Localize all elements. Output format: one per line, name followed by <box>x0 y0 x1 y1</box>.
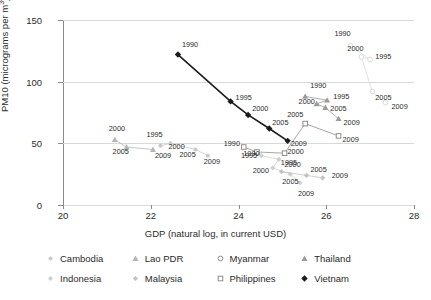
point-year-label: 1995 <box>236 94 252 101</box>
point-year-label: 2009 <box>332 172 348 179</box>
point-year-label: 2000 <box>253 167 269 174</box>
point-year-label: 2000 <box>252 105 268 112</box>
data-point-malaysia-2000 <box>279 169 284 174</box>
y-axis-tick-label: 100 <box>26 76 42 87</box>
point-year-label: 2005 <box>287 111 303 118</box>
y-axis-tick-label: 150 <box>26 15 42 26</box>
point-year-label: 2009 <box>155 152 171 159</box>
data-point-indonesia-2000 <box>270 165 275 170</box>
point-year-label: 2000 <box>347 45 363 52</box>
x-axis-tick-label: 22 <box>145 210 156 221</box>
point-year-label: 2009 <box>291 140 307 147</box>
point-year-label: 1995 <box>146 131 162 138</box>
point-year-label: 2009 <box>391 103 407 110</box>
point-year-label: 2005 <box>272 119 288 126</box>
legend-label: Cambodia <box>60 253 103 264</box>
legend-label: Philippines <box>230 273 276 284</box>
legend-item-philippines[interactable]: Philippines <box>216 268 301 288</box>
x-axis-tick <box>414 205 415 209</box>
legend-item-vietnam[interactable]: Vietnam <box>300 268 385 288</box>
point-year-label: 2005 <box>282 178 298 185</box>
legend-item-thailand[interactable]: Thailand <box>300 248 385 268</box>
y-axis-tick-label: 50 <box>31 138 42 149</box>
legend-item-malaysia[interactable]: Malaysia <box>131 268 216 288</box>
diamond-small-icon <box>46 274 55 283</box>
legend-item-cambodia[interactable]: Cambodia <box>46 248 131 268</box>
pm10-vs-gdp-scatter-chart: PM10 (micrograms per m3) GDP (natural lo… <box>0 0 431 300</box>
point-year-label: 2000 <box>288 148 304 155</box>
x-axis-tick-label: 20 <box>58 210 69 221</box>
point-year-label: 1990 <box>182 41 198 48</box>
data-point-myanmar-2000 <box>359 55 364 60</box>
x-axis-tick <box>151 205 152 209</box>
legend-item-indonesia[interactable]: Indonesia <box>46 268 131 288</box>
x-axis-tick-label: 26 <box>321 210 332 221</box>
diamond-icon <box>300 274 309 283</box>
point-year-label: 2009 <box>344 119 360 126</box>
point-year-label: 1990 <box>334 30 350 37</box>
data-point-philippines-2009 <box>336 134 341 139</box>
circle-open-icon <box>216 254 225 263</box>
point-year-label: 1990 <box>224 140 240 147</box>
point-year-label: 2000 <box>109 125 125 132</box>
point-year-label: 2005 <box>180 151 196 158</box>
x-axis-tick-label: 24 <box>233 210 244 221</box>
point-year-label: 2009 <box>204 158 220 165</box>
x-axis-tick <box>326 205 327 209</box>
point-year-label: 2005 <box>311 166 327 173</box>
point-year-label: 2005 <box>113 148 129 155</box>
point-year-label: 1995 <box>333 93 349 100</box>
legend-label: Lao PDR <box>145 253 184 264</box>
x-axis-tick <box>63 205 64 209</box>
data-point-malaysia-2009 <box>320 175 325 180</box>
legend-label: Thailand <box>314 253 350 264</box>
y-axis-tick-label: 0 <box>37 200 42 211</box>
x-axis-tick-label: 28 <box>409 210 420 221</box>
legend-item-lao-pdr[interactable]: Lao PDR <box>131 248 216 268</box>
legend-label: Malaysia <box>145 273 183 284</box>
data-point-thailand-2005 <box>322 105 328 110</box>
point-year-label: 2005 <box>330 105 346 112</box>
point-year-label: 1995 <box>241 152 257 159</box>
point-year-label: 1995 <box>375 53 391 60</box>
diamond-small-icon <box>131 274 140 283</box>
data-point-malaysia-2005 <box>304 173 309 178</box>
x-axis-tick <box>239 205 240 209</box>
legend-label: Myanmar <box>230 253 270 264</box>
point-year-label: 1990 <box>310 82 326 89</box>
legend-item-myanmar[interactable]: Myanmar <box>216 248 301 268</box>
square-open-icon <box>216 274 225 283</box>
triangle-icon <box>131 254 140 263</box>
data-point-philippines-2000 <box>282 151 287 156</box>
circle-small-icon <box>46 254 55 263</box>
x-axis-title: GDP (natural log, in current USD) <box>0 228 431 239</box>
triangle-icon <box>300 254 309 263</box>
plot-area: 050100150 2022242628 1995200020052009200… <box>63 20 414 205</box>
y-axis-title: PM10 (micrograms per m3) <box>0 0 10 112</box>
point-year-label: 2009 <box>343 136 359 143</box>
chart-legend: CambodiaLao PDRMyanmarThailandIndonesiaM… <box>0 248 431 288</box>
point-year-label: 2000 <box>299 98 315 105</box>
data-point-lao-pdr-2000 <box>112 137 118 142</box>
legend-label: Indonesia <box>60 273 101 284</box>
point-year-label: 2009 <box>298 190 314 197</box>
data-point-myanmar-1995 <box>368 57 373 62</box>
data-point-philippines-2005 <box>303 121 308 126</box>
point-year-label: 2005 <box>375 94 391 101</box>
point-year-label: 2000 <box>284 161 300 168</box>
data-point-myanmar-2005 <box>370 89 375 94</box>
data-point-cambodia-1995 <box>158 144 162 148</box>
legend-label: Vietnam <box>314 273 349 284</box>
